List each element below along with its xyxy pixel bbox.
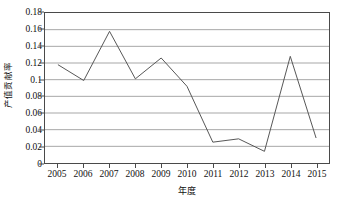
x-axis-tick-labels: 2005200620072008200920102011201220132014…	[0, 169, 346, 183]
x-axis-title: 年度	[44, 184, 330, 197]
x-axis-tick-label: 2015	[308, 169, 327, 180]
x-axis-tick-label: 2005	[48, 169, 67, 180]
x-axis-tick-label: 2009	[152, 169, 171, 180]
x-axis-tick-label: 2008	[126, 169, 145, 180]
y-axis-tick-mark	[39, 164, 44, 165]
x-axis-tick-mark	[161, 164, 162, 168]
y-axis-tick-mark	[39, 45, 44, 46]
y-axis-tick-mark	[39, 130, 44, 131]
x-axis-tick-label: 2011	[204, 169, 223, 180]
y-axis-tick-mark	[39, 62, 44, 63]
y-axis-tick-mark	[39, 79, 44, 80]
y-axis-tick-mark	[39, 96, 44, 97]
x-axis-tick-mark	[109, 164, 110, 168]
x-axis-tick-mark	[265, 164, 266, 168]
plot-area	[44, 12, 330, 164]
x-axis-tick-label: 2012	[230, 169, 249, 180]
y-axis-title: 产值贡献率	[0, 0, 14, 170]
y-axis-tick-mark	[39, 28, 44, 29]
x-axis-tick-mark	[135, 164, 136, 168]
x-axis-tick-label: 2006	[74, 169, 93, 180]
x-axis-tick-label: 2014	[282, 169, 301, 180]
x-axis-tick-mark	[213, 164, 214, 168]
x-axis-tick-label: 2010	[178, 169, 197, 180]
y-axis-tick-mark	[39, 113, 44, 114]
y-axis-tick-mark	[39, 147, 44, 148]
y-axis-tick-labels: 00.020.040.060.080.10.120.140.160.18	[13, 0, 42, 170]
x-axis-tick-mark	[239, 164, 240, 168]
series-polyline	[58, 31, 316, 151]
data-series-line	[45, 13, 329, 163]
x-axis-tick-label: 2013	[256, 169, 275, 180]
x-axis-tick-mark	[291, 164, 292, 168]
x-axis-tick-mark	[57, 164, 58, 168]
y-axis-tick-mark	[39, 12, 44, 13]
x-axis-tick-mark	[187, 164, 188, 168]
line-chart: 产值贡献率 00.020.040.060.080.10.120.140.160.…	[0, 0, 346, 204]
x-axis-tick-label: 2007	[100, 169, 119, 180]
y-axis-title-text: 产值贡献率	[1, 62, 13, 108]
x-axis-tick-mark	[83, 164, 84, 168]
x-axis-tick-mark	[317, 164, 318, 168]
